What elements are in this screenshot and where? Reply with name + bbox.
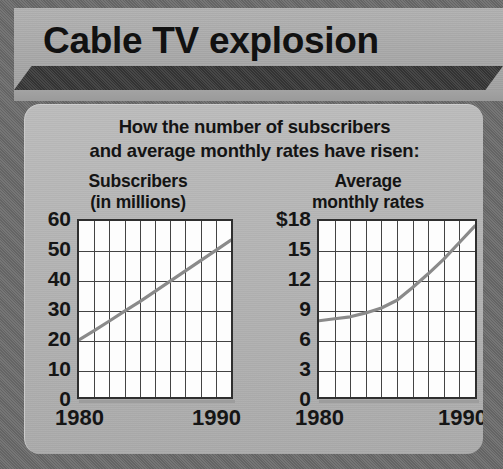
chart-average-monthly-rates-data-line [319,221,475,397]
chart-average-monthly-rates-y-tick: 15 [288,238,311,259]
chart-subscribers-y-axis: 6050403020100 [31,219,75,399]
title-band-shadow [14,90,503,101]
chart-average-monthly-rates-y-tick: 9 [299,298,311,319]
chart-average-monthly-rates: Average monthly rates $1815129630 1980 1… [257,171,479,405]
chart-average-monthly-rates-axis-shadow [319,400,479,403]
chart-average-monthly-rates-plot-area [317,219,477,399]
chart-subscribers-title-line-1: Subscribers [31,171,245,192]
chart-average-monthly-rates-y-tick: $18 [276,208,311,229]
chart-subscribers-plot-area [77,219,233,399]
chart-subscribers: Subscribers (in millions) 6050403020100 … [31,171,245,405]
chart-subscribers-y-tick: 20 [48,328,71,349]
chart-subscribers-axis-shadow [79,400,235,403]
title-divider-band [14,66,503,90]
chart-average-monthly-rates-y-tick: 6 [299,328,311,349]
subtitle: How the number of subscribers and averag… [25,115,483,163]
subtitle-line-1: How the number of subscribers [25,115,483,139]
chart-subscribers-data-line [79,221,231,397]
chart-average-monthly-rates-x-axis: 1980 1990 [295,405,483,435]
chart-average-monthly-rates-plot-wrap: $1815129630 1980 1990 [257,219,479,405]
subtitle-line-2: and average monthly rates have risen: [25,139,483,163]
chart-average-monthly-rates-x-tick-start: 1980 [295,405,344,431]
chart-subscribers-y-tick: 40 [48,268,71,289]
page-title: Cable TV explosion [43,18,379,64]
chart-subscribers-x-tick-end: 1990 [192,405,241,431]
chart-subscribers-x-axis: 1980 1990 [55,405,241,435]
chart-subscribers-plot-wrap: 6050403020100 1980 1990 [31,219,245,405]
infographic-root: Cable TV explosion How the number of sub… [0,0,503,469]
chart-subscribers-x-tick-start: 1980 [55,405,104,431]
chart-subscribers-y-tick: 10 [48,358,71,379]
chart-subscribers-y-tick: 60 [48,208,71,229]
chart-subscribers-y-tick: 50 [48,238,71,259]
chart-average-monthly-rates-title-line-1: Average [257,171,479,192]
chart-subscribers-y-tick: 30 [48,298,71,319]
content-panel: How the number of subscribers and averag… [24,104,483,454]
chart-average-monthly-rates-y-tick: 3 [299,358,311,379]
chart-average-monthly-rates-y-axis: $1815129630 [257,219,315,399]
chart-average-monthly-rates-x-tick-end: 1990 [438,405,483,431]
chart-average-monthly-rates-y-tick: 12 [288,268,311,289]
